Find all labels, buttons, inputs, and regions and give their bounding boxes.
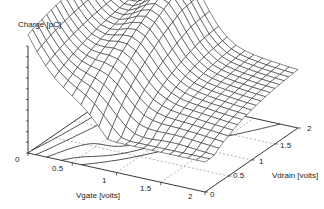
x-tick-1: 1: [102, 176, 107, 185]
x-tick-1.5: 1.5: [140, 184, 152, 193]
x-tick-2: 2: [188, 192, 193, 201]
x-tick-0.5: 0.5: [52, 164, 64, 173]
y-tick-1.5: 1.5: [280, 141, 292, 150]
charge-axis: [26, 46, 28, 153]
y-axis-label: Vdrain [volts]: [272, 171, 318, 180]
y-tick-1: 1: [259, 157, 264, 166]
z-axis-label: Charge [pC]: [18, 20, 61, 29]
y-tick-0.5: 0.5: [233, 171, 245, 180]
wireframe-surface: [28, 0, 298, 162]
surface-plot: Charge [pC] Vgate [volts] Vdrain [volts]…: [0, 0, 324, 209]
y-tick-2: 2: [307, 124, 312, 133]
y-tick-0: 0: [210, 190, 215, 199]
x-tick-0: 0: [15, 155, 20, 164]
x-axis-label: Vgate [volts]: [76, 191, 120, 200]
